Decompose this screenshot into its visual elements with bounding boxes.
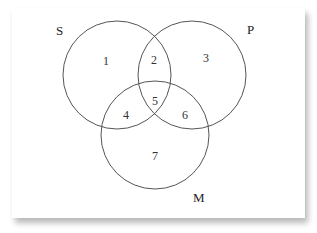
region-5: 5 [152, 94, 158, 108]
region-7: 7 [152, 149, 158, 163]
set-p-circle [138, 21, 246, 129]
region-3: 3 [203, 51, 209, 65]
region-2: 2 [151, 53, 157, 67]
set-p-label: P [247, 22, 254, 37]
set-s-circle [63, 21, 171, 129]
region-4: 4 [123, 108, 129, 122]
venn-diagram: S P M 1 2 3 4 5 6 7 [0, 0, 317, 233]
region-1: 1 [103, 54, 109, 68]
set-m-label: M [193, 190, 205, 205]
set-s-label: S [56, 23, 63, 38]
region-6: 6 [182, 108, 188, 122]
